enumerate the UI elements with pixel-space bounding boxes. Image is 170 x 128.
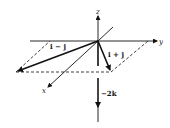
x-axis-label: x	[42, 87, 46, 95]
y-axis-label: y	[158, 38, 164, 46]
vector-diagram: z y x i − j i + j −2k	[0, 0, 170, 128]
dashed-parallelogram	[16, 41, 148, 72]
i-plus-j-label: i + j	[108, 50, 124, 59]
z-axis-label: z	[95, 8, 100, 16]
i-minus-j-label: i − j	[50, 42, 66, 51]
x-axis	[48, 27, 113, 87]
minus-2k-label: −2k	[101, 89, 117, 98]
